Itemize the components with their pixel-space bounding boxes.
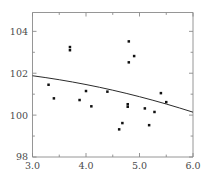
data-point [133, 55, 136, 58]
y-tick-label: 98 [16, 151, 28, 162]
chart-canvas: 3.04.05.06.0 98100102104 [0, 0, 205, 184]
data-point [128, 61, 131, 64]
data-point [148, 124, 151, 127]
x-tick-label: 5.0 [132, 160, 147, 171]
data-point [106, 90, 109, 93]
data-point [144, 107, 147, 110]
x-tick-label: 4.0 [78, 160, 93, 171]
data-point [118, 128, 121, 131]
y-tick-label: 100 [10, 110, 28, 121]
y-tick-label: 104 [10, 26, 28, 37]
regression-line [33, 76, 194, 112]
data-points-group [47, 40, 167, 130]
data-point [126, 105, 129, 108]
x-axis-tick-labels: 3.04.05.06.0 [25, 160, 201, 171]
data-point [160, 92, 163, 95]
data-point [165, 101, 168, 104]
plot-frame [33, 13, 194, 158]
data-point [128, 40, 131, 43]
y-axis-tick-labels: 98100102104 [10, 26, 28, 163]
data-point [69, 49, 72, 52]
x-tick-label: 6.0 [185, 160, 200, 171]
data-point [85, 90, 88, 93]
data-point [121, 122, 124, 125]
data-point [153, 111, 156, 114]
fitted-curve [33, 76, 194, 112]
data-point [53, 97, 56, 100]
data-point [47, 84, 50, 87]
y-tick-label: 102 [10, 68, 28, 79]
data-point [69, 46, 72, 49]
scatter-plot-figure: 3.04.05.06.0 98100102104 [0, 0, 205, 184]
data-point [90, 105, 93, 108]
data-point [126, 103, 129, 106]
tick-marks-group [33, 13, 194, 158]
data-point [78, 99, 81, 102]
axes-group [33, 13, 194, 158]
